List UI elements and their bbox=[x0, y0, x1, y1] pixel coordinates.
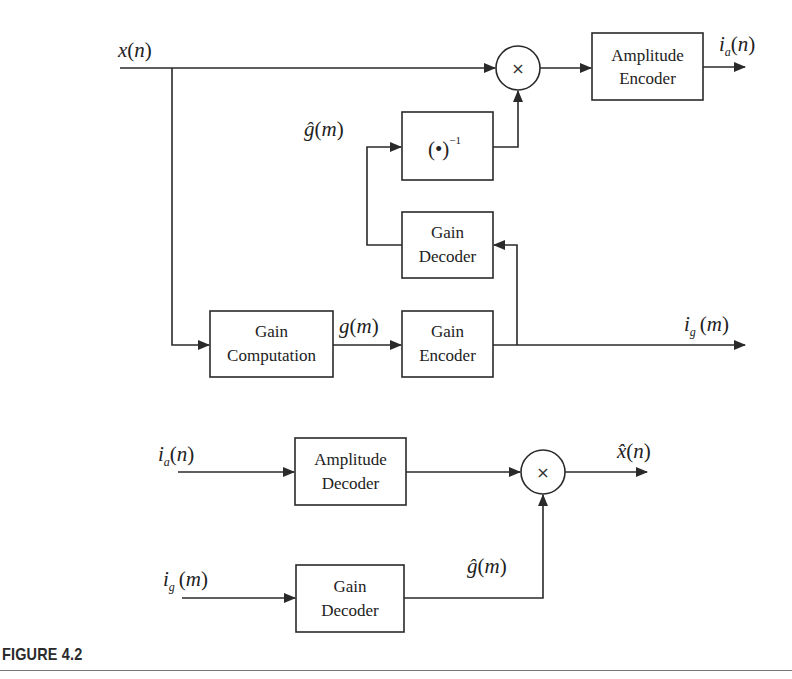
amplitude-encoder-block: Amplitude Encoder bbox=[592, 33, 703, 100]
inverse-base: (•) bbox=[428, 137, 449, 161]
decoder-diagram: ia(n) Amplitude Decoder × x̂(n) ig(m) Ga… bbox=[158, 438, 651, 632]
ia-input-label: ia(n) bbox=[158, 442, 194, 469]
encoder-gain-decoder-block: Gain Decoder bbox=[402, 212, 493, 278]
gain-decoder-to-multiplier-wire bbox=[404, 495, 543, 598]
encoder-multiplier: × bbox=[496, 46, 540, 90]
multiply-icon: × bbox=[536, 463, 549, 482]
svg-text:Decoder: Decoder bbox=[321, 601, 379, 620]
svg-text:Amplitude: Amplitude bbox=[611, 46, 684, 65]
inverse-to-multiplier-wire bbox=[493, 91, 518, 147]
gain-encoder-to-decoder-wire bbox=[494, 245, 517, 345]
branch-to-gain-computation-wire bbox=[172, 68, 209, 345]
block-diagram: x(n) × Amplitude Encoder ia(n) (•)−1 bbox=[0, 0, 792, 679]
svg-text:Amplitude: Amplitude bbox=[314, 450, 387, 469]
ia-output-label: ia(n) bbox=[719, 32, 755, 59]
inverse-block: (•)−1 bbox=[402, 112, 493, 180]
svg-text:Gain: Gain bbox=[333, 577, 367, 596]
ghat-decoder-label: ĝ(m) bbox=[467, 554, 507, 578]
gain-encoder-block: Gain Encoder bbox=[402, 311, 493, 377]
caption-divider bbox=[0, 670, 792, 671]
svg-text:Gain: Gain bbox=[431, 223, 465, 242]
ig-input-label: ig(m) bbox=[163, 567, 208, 594]
inverse-exponent: −1 bbox=[449, 134, 461, 146]
svg-text:Decoder: Decoder bbox=[322, 474, 380, 493]
gain-decoder-to-inverse-wire bbox=[367, 147, 402, 245]
decoder-gain-decoder-block: Gain Decoder bbox=[296, 565, 404, 632]
ig-output-label: ig(m) bbox=[684, 312, 729, 339]
decoder-multiplier: × bbox=[521, 450, 565, 494]
gain-computation-block: Gain Computation bbox=[210, 311, 333, 377]
svg-text:Gain: Gain bbox=[431, 322, 465, 341]
svg-text:Encoder: Encoder bbox=[619, 69, 676, 88]
amplitude-decoder-block: Amplitude Decoder bbox=[295, 438, 406, 505]
input-signal-label: x(n) bbox=[117, 38, 152, 62]
svg-text:Decoder: Decoder bbox=[419, 247, 477, 266]
svg-text:Encoder: Encoder bbox=[419, 346, 476, 365]
g-label: g(m) bbox=[339, 314, 379, 338]
multiply-icon: × bbox=[511, 59, 524, 78]
svg-text:Gain: Gain bbox=[255, 322, 289, 341]
xhat-output-label: x̂(n) bbox=[616, 439, 651, 463]
ghat-encoder-label: ĝ(m) bbox=[304, 117, 344, 141]
figure-caption: FIGURE 4.2 bbox=[2, 645, 82, 665]
encoder-diagram: x(n) × Amplitude Encoder ia(n) (•)−1 bbox=[117, 32, 755, 377]
svg-text:Computation: Computation bbox=[227, 346, 316, 365]
